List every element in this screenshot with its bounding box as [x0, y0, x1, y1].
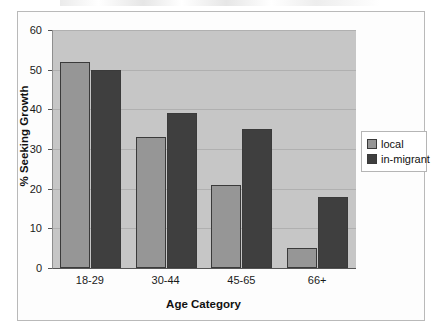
x-axis-title: Age Category: [52, 298, 355, 310]
bar-in-migrant-66+: [318, 197, 348, 268]
legend-label-local: local: [381, 138, 404, 150]
legend-label-in-migrant: in-migrant: [381, 153, 430, 165]
legend-item-local: local: [367, 136, 422, 151]
y-tick-label: 10: [0, 223, 42, 233]
bar-group: [60, 30, 122, 268]
bar-in-migrant-30-44: [167, 113, 197, 268]
bar-local-45-65: [211, 185, 241, 268]
y-tick-label: 50: [0, 65, 42, 75]
y-tick-label: 0: [0, 263, 42, 273]
bar-group: [136, 30, 198, 268]
y-tick-label: 30: [0, 144, 42, 154]
bar-local-30-44: [136, 137, 166, 268]
plot-area: [52, 30, 356, 269]
x-tick-label: 45-65: [201, 274, 281, 286]
x-tick-label: 30-44: [126, 274, 206, 286]
chart-figure: % Seeking Growth 0102030405060 18-2930-4…: [0, 0, 439, 334]
bar-in-migrant-45-65: [242, 129, 272, 268]
bar-local-66+: [287, 248, 317, 268]
y-tick-label: 40: [0, 104, 42, 114]
bar-in-migrant-18-29: [91, 70, 121, 268]
bar-local-18-29: [60, 62, 90, 268]
legend: local in-migrant: [361, 131, 427, 172]
x-tick-label: 18-29: [50, 274, 130, 286]
y-tick-label: 60: [0, 25, 42, 35]
x-tick-label: 66+: [277, 274, 357, 286]
bars-layer: [53, 30, 356, 268]
scan-artifact: [60, 0, 380, 6]
bar-group: [211, 30, 273, 268]
legend-swatch-in-migrant-icon: [367, 154, 377, 164]
bar-group: [287, 30, 349, 268]
legend-item-in-migrant: in-migrant: [367, 151, 422, 166]
legend-swatch-local-icon: [367, 139, 377, 149]
y-tick-label: 20: [0, 184, 42, 194]
